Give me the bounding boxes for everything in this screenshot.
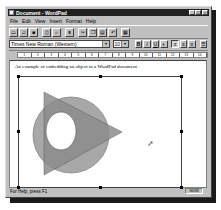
resize-handle-ne[interactable] [180, 75, 183, 78]
ruler-tick: 4 [59, 53, 73, 57]
embedded-object-frame[interactable]: ➚ [18, 76, 182, 188]
ruler-tick: 10 [140, 53, 154, 57]
maximize-button[interactable]: □ [195, 10, 201, 15]
title-bar[interactable]: Document - WordPad _ □ × [8, 9, 209, 16]
ruler-tick: 2 [32, 53, 46, 57]
new-document-icon[interactable]: ▭ [9, 28, 18, 37]
menu-file[interactable]: File [8, 18, 20, 24]
menu-help[interactable]: Help [84, 18, 98, 24]
wordpad-window: Document - WordPad _ □ × File Edit View … [5, 6, 212, 198]
status-bar: For Help, press F1 NUM [8, 187, 209, 195]
window-controls: _ □ × [189, 10, 208, 15]
ruler-tick: 12 [167, 53, 181, 57]
ruler-tick: 8 [113, 53, 127, 57]
embedded-drawing[interactable] [19, 77, 181, 187]
close-button[interactable]: × [202, 10, 208, 15]
menu-bar: File Edit View Insert Format Help [8, 17, 209, 24]
ruler-strip[interactable]: 1 2 3 4 5 6 7 8 9 10 11 12 13 14 [17, 52, 208, 58]
window-title: Document - WordPad [16, 10, 67, 16]
menu-insert[interactable]: Insert [47, 18, 64, 24]
ruler-tick: 5 [72, 53, 86, 57]
bold-button[interactable]: B [135, 40, 142, 48]
font-size-dropdown[interactable]: 10 ▾ [113, 40, 130, 48]
menu-edit[interactable]: Edit [20, 18, 33, 24]
italic-button[interactable]: I [143, 40, 150, 48]
undo-icon[interactable]: ↶ [108, 28, 117, 37]
ruler-tick: 11 [153, 53, 167, 57]
ruler-tick: 14 [194, 53, 208, 57]
find-binoculars-icon[interactable]: ᴥ [65, 28, 74, 37]
ruler-tick: 3 [45, 53, 59, 57]
paste-clipboard-icon[interactable]: ▤ [98, 28, 107, 37]
print-icon[interactable]: ⎙ [42, 28, 51, 37]
bullets-button[interactable]: ☰ [200, 40, 207, 48]
document-area[interactable]: An example of embedding an object in a W… [9, 60, 207, 188]
open-folder-icon[interactable]: ▱ [19, 28, 28, 37]
ruler[interactable]: 1 2 3 4 5 6 7 8 9 10 11 12 13 14 [9, 51, 208, 59]
chevron-down-icon[interactable]: ▾ [121, 41, 128, 47]
ruler-tick: 1 [18, 53, 32, 57]
resize-handle-w[interactable] [17, 130, 20, 133]
save-disk-icon[interactable]: ■ [29, 28, 38, 37]
font-size-value: 10 [115, 41, 121, 47]
chevron-down-icon[interactable]: ▾ [102, 41, 109, 47]
ellipse-hole-shape [46, 112, 76, 150]
print-preview-icon[interactable]: ⌕ [52, 28, 61, 37]
format-bar: Times New Roman (Western) ▾ 10 ▾ B I U ◐… [9, 38, 208, 51]
ruler-tick: 7 [99, 53, 113, 57]
ruler-tick: 13 [180, 53, 194, 57]
ruler-tick: 6 [86, 53, 100, 57]
underline-button[interactable]: U [152, 40, 159, 48]
resize-handle-e[interactable] [180, 130, 183, 133]
standard-toolbar: ▭ ▱ ■ ⎙ ⌕ ᴥ ✂ ❐ ▤ ↶ ▦ [9, 25, 208, 39]
num-lock-indicator: NUM [185, 188, 203, 194]
status-help-text: For Help, press F1 [8, 189, 185, 194]
align-right-button[interactable]: ≡ [188, 40, 195, 48]
menu-format[interactable]: Format [64, 18, 84, 24]
menu-view[interactable]: View [33, 18, 48, 24]
date-time-icon[interactable]: ▦ [121, 28, 130, 37]
wordpad-app-icon[interactable] [9, 10, 14, 15]
align-left-button[interactable]: ≡ [171, 40, 178, 48]
align-center-button[interactable]: ≡ [180, 40, 187, 48]
font-name-value: Times New Roman (Western) [11, 41, 77, 47]
font-name-dropdown[interactable]: Times New Roman (Western) ▾ [9, 40, 110, 48]
ruler-tick: 9 [126, 53, 140, 57]
color-palette-icon[interactable]: ◐ [160, 40, 167, 48]
mouse-pointer-icon: ➚ [147, 139, 154, 148]
resize-handle-n[interactable] [99, 75, 102, 78]
document-text[interactable]: An example of embedding an object in a W… [15, 64, 137, 69]
copy-icon[interactable]: ❐ [88, 28, 97, 37]
cut-scissors-icon[interactable]: ✂ [78, 28, 87, 37]
resize-handle-nw[interactable] [17, 75, 20, 78]
